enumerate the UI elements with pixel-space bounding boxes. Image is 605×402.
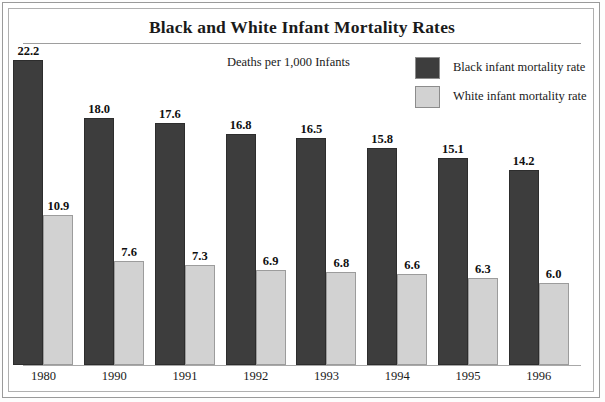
bar-group: 14.26.0 [509, 49, 569, 365]
bar-white-1992[interactable]: 6.9 [256, 270, 286, 365]
bar-white-1995[interactable]: 6.3 [468, 278, 498, 365]
bar-white-1991[interactable]: 7.3 [185, 265, 215, 365]
bar-value-label: 6.0 [546, 267, 562, 282]
bar-value-label: 15.1 [442, 142, 464, 157]
x-axis-label-1980: 1980 [13, 369, 73, 384]
bar-group: 17.67.3 [155, 49, 215, 365]
bar-black-1993[interactable]: 16.5 [296, 138, 326, 365]
bar-group: 16.56.8 [296, 49, 356, 365]
bar-value-label: 16.5 [300, 122, 322, 137]
bar-white-1990[interactable]: 7.6 [114, 261, 144, 365]
bar-black-1995[interactable]: 15.1 [438, 158, 468, 365]
bar-value-label: 7.6 [121, 245, 137, 260]
x-axis-label-1994: 1994 [367, 369, 427, 384]
x-axis-label-1990: 1990 [84, 369, 144, 384]
bar-group: 18.07.6 [84, 49, 144, 365]
bar-white-1996[interactable]: 6.0 [539, 283, 569, 365]
bar-black-1991[interactable]: 17.6 [155, 123, 185, 365]
bar-value-label: 6.8 [334, 256, 350, 271]
bar-white-1993[interactable]: 6.8 [326, 272, 356, 365]
x-axis-label-1992: 1992 [226, 369, 286, 384]
bar-value-label: 6.6 [404, 258, 420, 273]
bar-white-1994[interactable]: 6.6 [397, 274, 427, 365]
chart-page: Black and White Infant Mortality Rates D… [0, 0, 605, 402]
bar-value-label: 16.8 [230, 118, 252, 133]
bar-value-label: 10.9 [47, 199, 69, 214]
bar-black-1992[interactable]: 16.8 [226, 134, 256, 365]
x-axis-label-1995: 1995 [438, 369, 498, 384]
bar-black-1980[interactable]: 22.2 [13, 60, 43, 365]
bar-black-1994[interactable]: 15.8 [367, 148, 397, 365]
x-axis-label-1993: 1993 [296, 369, 356, 384]
bar-group: 15.16.3 [438, 49, 498, 365]
bar-black-1996[interactable]: 14.2 [509, 170, 539, 365]
bar-group: 16.86.9 [226, 49, 286, 365]
bar-value-label: 22.2 [17, 44, 39, 59]
bar-value-label: 18.0 [88, 102, 110, 117]
x-axis-labels: 19801990199119921993199419951996 [18, 369, 584, 389]
x-axis-label-1991: 1991 [155, 369, 215, 384]
bar-white-1980[interactable]: 10.9 [43, 215, 73, 365]
title-divider [23, 43, 581, 44]
bar-group: 22.210.9 [13, 49, 73, 365]
bar-value-label: 6.3 [475, 262, 491, 277]
axis-baseline [23, 365, 581, 366]
bar-value-label: 14.2 [513, 154, 535, 169]
bar-black-1990[interactable]: 18.0 [84, 118, 114, 365]
plot-area: 22.210.918.07.617.67.316.86.916.56.815.8… [18, 49, 584, 365]
x-axis-label-1996: 1996 [509, 369, 569, 384]
chart-frame: Black and White Infant Mortality Rates D… [8, 8, 594, 392]
bar-value-label: 17.6 [159, 107, 181, 122]
bar-value-label: 15.8 [371, 132, 393, 147]
bar-value-label: 7.3 [192, 249, 208, 264]
chart-title: Black and White Infant Mortality Rates [9, 17, 595, 38]
bar-group: 15.86.6 [367, 49, 427, 365]
bar-value-label: 6.9 [263, 254, 279, 269]
